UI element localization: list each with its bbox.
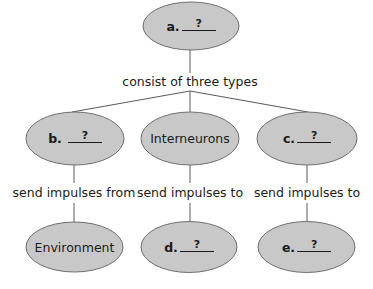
node-interneurons: Interneurons (141, 112, 239, 165)
middle-link-label: send impulses to (135, 185, 245, 200)
node-c: c. ? (257, 112, 357, 165)
root-link-label: consist of three types (120, 74, 259, 89)
node-environment-label: Environment (35, 240, 115, 255)
node-d-letter: d. (164, 240, 178, 255)
node-c-letter: c. (283, 131, 295, 146)
node-interneurons-label: Interneurons (150, 131, 230, 146)
node-a: a. ? (143, 2, 239, 50)
node-d: d. ? (141, 222, 237, 273)
node-b-blank: ? (68, 130, 102, 143)
left-link-label: send impulses from (11, 185, 138, 200)
node-e-blank: ? (297, 239, 331, 252)
node-a-letter: a. (166, 19, 179, 34)
right-link-label: send impulses to (252, 185, 362, 200)
node-a-blank: ? (182, 18, 216, 31)
node-b: b. ? (26, 112, 124, 165)
node-c-blank: ? (297, 130, 331, 143)
branch-left (72, 91, 190, 112)
branch-right (190, 91, 308, 112)
node-b-letter: b. (48, 131, 62, 146)
node-environment: Environment (26, 222, 123, 272)
node-d-blank: ? (180, 239, 214, 252)
node-e-letter: e. (282, 240, 295, 255)
node-e: e. ? (258, 222, 355, 273)
